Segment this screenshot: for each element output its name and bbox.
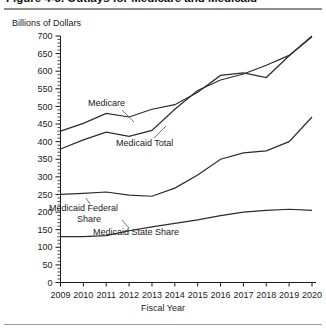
x-tick-label: 2017 bbox=[233, 290, 253, 300]
x-tick-label: 2013 bbox=[142, 290, 162, 300]
label-medicare: Medicare bbox=[88, 98, 125, 108]
series-line-medicaid-federal-share bbox=[61, 117, 313, 196]
annotation-medicaid-state-share: Medicaid State Share bbox=[93, 220, 179, 237]
y-tick-label: 150 bbox=[37, 225, 52, 235]
x-tick-label: 2016 bbox=[211, 290, 231, 300]
x-tick-label: 2010 bbox=[73, 290, 93, 300]
label-medicaid-federal-line2: Share bbox=[77, 214, 101, 224]
y-tick-label: 400 bbox=[37, 137, 52, 147]
y-tick-label: 100 bbox=[37, 242, 52, 252]
bottom-divider-rule bbox=[4, 324, 322, 325]
y-tick-label: 550 bbox=[37, 84, 52, 94]
x-tick-label: 2015 bbox=[188, 290, 208, 300]
y-axis-ticks: 0501001502002503003504004505005506006507… bbox=[37, 31, 60, 288]
x-tick-label: 2011 bbox=[97, 290, 116, 300]
annotation-medicaid-total: Medicaid Total bbox=[116, 126, 173, 148]
y-tick-label: 600 bbox=[37, 66, 52, 76]
chart-axes bbox=[61, 36, 317, 283]
x-tick-label: 2019 bbox=[279, 290, 299, 300]
y-tick-label: 650 bbox=[37, 49, 52, 59]
label-medicaid-state: Medicaid State Share bbox=[93, 227, 179, 237]
series-line-medicaid-total bbox=[61, 37, 313, 149]
figure-container: Figure 4-3. Outlays for Medicare and Med… bbox=[0, 0, 326, 331]
y-tick-label: 350 bbox=[37, 154, 52, 164]
y-tick-label: 50 bbox=[42, 260, 52, 270]
x-tick-label: 2020 bbox=[302, 290, 322, 300]
x-tick-label: 2018 bbox=[256, 290, 276, 300]
label-medicaid-total: Medicaid Total bbox=[116, 138, 173, 148]
x-tick-label: 2014 bbox=[165, 290, 185, 300]
series-line-medicare bbox=[61, 36, 313, 131]
y-tick-label: 250 bbox=[37, 190, 52, 200]
x-axis-ticks: 2009201020112012201320142015201620172018… bbox=[50, 283, 322, 300]
x-axis-title: Fiscal Year bbox=[0, 303, 326, 313]
line-chart: 0501001502002503003504004505005506006507… bbox=[0, 0, 326, 331]
x-tick-label: 2009 bbox=[50, 290, 70, 300]
y-tick-label: 0 bbox=[47, 278, 52, 288]
y-tick-label: 700 bbox=[37, 31, 52, 41]
y-tick-label: 500 bbox=[37, 102, 52, 112]
x-tick-label: 2012 bbox=[119, 290, 139, 300]
y-tick-label: 450 bbox=[37, 119, 52, 129]
label-medicaid-federal-line1: Medicaid Federal bbox=[49, 203, 118, 213]
y-tick-label: 300 bbox=[37, 172, 52, 182]
